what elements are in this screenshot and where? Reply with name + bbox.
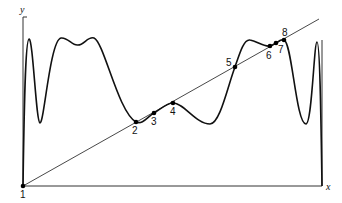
- intersection-label-5: 5: [226, 57, 232, 68]
- intersection-point-4: [171, 101, 176, 106]
- y-axis-label: y: [19, 4, 25, 15]
- intersection-label-8: 8: [282, 27, 288, 38]
- intersection-label-2: 2: [132, 125, 138, 136]
- intersection-point-5: [233, 65, 238, 70]
- x-axis-label: x: [325, 181, 331, 192]
- intersection-point-3: [152, 111, 157, 116]
- intersection-diagram: y x 12345678: [0, 0, 342, 203]
- intersection-label-1: 1: [20, 189, 26, 200]
- intersection-label-4: 4: [170, 106, 176, 117]
- intersection-label-7: 7: [278, 44, 284, 55]
- intersection-point-8: [282, 38, 287, 43]
- intersection-point-2: [134, 120, 139, 125]
- intersection-point-1: [21, 184, 26, 189]
- intersection-points: 12345678: [20, 27, 288, 200]
- intersection-label-3: 3: [151, 116, 157, 127]
- intersection-label-6: 6: [266, 50, 272, 61]
- intersection-point-6: [268, 44, 273, 49]
